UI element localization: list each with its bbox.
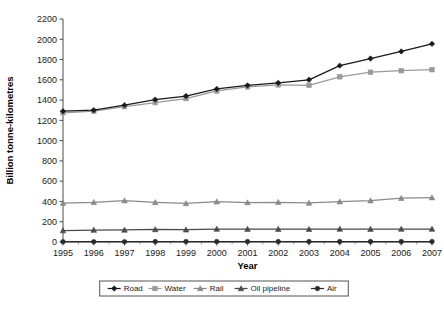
- x-tick-label: 2001: [237, 248, 257, 258]
- data-point: [430, 239, 435, 244]
- chart-canvas: 0200400600800100012001400160018002000220…: [0, 0, 444, 315]
- data-point: [399, 49, 404, 54]
- data-point: [153, 239, 158, 244]
- x-tick-label: 1998: [145, 248, 165, 258]
- data-point: [91, 239, 96, 244]
- y-tick-label: 2000: [37, 35, 57, 45]
- data-point: [429, 41, 434, 46]
- legend-marker: [315, 286, 320, 291]
- data-point: [307, 83, 312, 88]
- series-oil-pipeline: [60, 226, 435, 233]
- x-tick-label: 2007: [422, 248, 442, 258]
- data-point: [245, 239, 250, 244]
- legend-label: Road: [124, 284, 143, 293]
- y-tick-label: 2200: [37, 14, 57, 24]
- legend-label: Water: [165, 284, 186, 293]
- legend-label: Air: [327, 284, 337, 293]
- x-tick-label: 2000: [207, 248, 227, 258]
- legend-marker: [153, 286, 158, 291]
- y-tick-label: 1800: [37, 55, 57, 65]
- x-tick-label: 2005: [360, 248, 380, 258]
- legend-label: Rail: [210, 284, 224, 293]
- x-tick-label: 2006: [391, 248, 411, 258]
- y-tick-label: 0: [52, 237, 57, 247]
- data-point: [399, 239, 404, 244]
- y-tick-label: 800: [42, 156, 57, 166]
- legend: RoadWaterRailOil pipelineAir: [100, 281, 349, 296]
- y-tick-label: 1200: [37, 116, 57, 126]
- y-tick-label: 1600: [37, 75, 57, 85]
- line-chart: 0200400600800100012001400160018002000220…: [0, 0, 444, 315]
- x-tick-label: 2002: [268, 248, 288, 258]
- series-rail: [60, 195, 435, 206]
- x-tick-label: 1997: [114, 248, 134, 258]
- data-point: [184, 239, 189, 244]
- data-point: [337, 63, 342, 68]
- data-point: [306, 77, 311, 82]
- x-tick-label: 2004: [330, 248, 350, 258]
- data-point: [368, 239, 373, 244]
- data-point: [368, 70, 373, 75]
- y-tick-label: 200: [42, 217, 57, 227]
- data-point: [214, 239, 219, 244]
- series-road: [60, 41, 434, 114]
- x-tick-label: 2003: [299, 248, 319, 258]
- data-point: [122, 239, 127, 244]
- data-point: [276, 239, 281, 244]
- x-tick-label: 1999: [176, 248, 196, 258]
- series-air: [61, 239, 435, 244]
- legend-label: Oil pipeline: [251, 284, 291, 293]
- x-axis-title: Year: [237, 260, 257, 271]
- y-tick-label: 400: [42, 197, 57, 207]
- data-point: [61, 239, 66, 244]
- series-water: [61, 67, 435, 115]
- data-point: [337, 239, 342, 244]
- data-point: [430, 67, 435, 72]
- data-point: [307, 239, 312, 244]
- y-axis: 0200400600800100012001400160018002000220…: [37, 14, 63, 247]
- data-point: [399, 68, 404, 73]
- x-tick-label: 1995: [53, 248, 73, 258]
- data-point: [337, 74, 342, 79]
- data-point: [368, 56, 373, 61]
- x-tick-label: 1996: [84, 248, 104, 258]
- y-tick-label: 600: [42, 176, 57, 186]
- x-axis: 1995199619971998199920002001200220032004…: [53, 242, 442, 258]
- y-tick-label: 1000: [37, 136, 57, 146]
- y-tick-label: 1400: [37, 95, 57, 105]
- y-axis-title: Billion tonne-kilometres: [4, 76, 15, 184]
